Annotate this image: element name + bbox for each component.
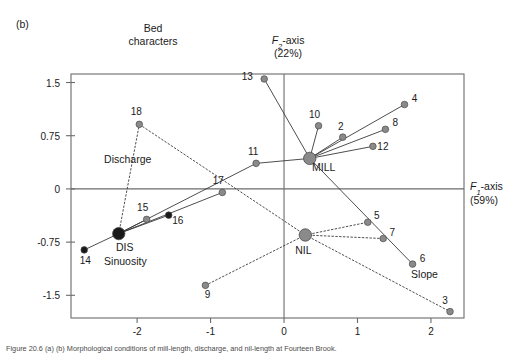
spoke-nil-9 — [205, 235, 305, 285]
data-point-18[interactable] — [136, 121, 143, 128]
data-point-5[interactable] — [364, 219, 371, 226]
spoke-nil-7 — [305, 235, 383, 239]
x-tick-label: 0 — [281, 326, 287, 337]
data-point-label-6: 6 — [420, 253, 426, 264]
data-point-16[interactable] — [165, 212, 172, 219]
panel-label: (b) — [16, 18, 29, 30]
data-point-7[interactable] — [380, 235, 387, 242]
zone-label-discharge: Discharge — [104, 153, 151, 165]
figure-panel: (b) -2-10121.50.750-0.75-1.5Bedcharacter… — [0, 0, 512, 355]
data-point-17[interactable] — [219, 189, 226, 196]
spoke-mill-13 — [264, 79, 310, 158]
spoke-dis-18 — [119, 124, 140, 233]
x-tick-label: 1 — [355, 326, 361, 337]
data-point-label-12: 12 — [377, 141, 389, 152]
data-point-label-5: 5 — [374, 210, 380, 221]
data-point-14[interactable] — [81, 247, 88, 254]
data-point-label-8: 8 — [393, 117, 399, 128]
y-tick-label: -1.5 — [43, 290, 61, 301]
data-point-15[interactable] — [143, 216, 150, 223]
spoke-mill-11 — [256, 158, 310, 163]
data-point-12[interactable] — [370, 143, 377, 150]
chart-header-line1: Bed — [144, 22, 163, 34]
data-point-label-4: 4 — [412, 93, 418, 104]
data-point-label-17: 17 — [213, 175, 225, 186]
f2-axis-variance: (22%) — [274, 47, 302, 59]
data-point-label-11: 11 — [248, 146, 259, 157]
data-point-label-2: 2 — [338, 121, 344, 132]
figure-caption: Figure 20.6 (a) (b) Morphological condit… — [6, 344, 506, 353]
data-point-label-18: 18 — [131, 106, 143, 117]
data-point-label-10: 10 — [309, 109, 321, 120]
spoke-dis-11 — [119, 163, 256, 233]
data-point-13[interactable] — [261, 76, 268, 83]
data-point-4[interactable] — [401, 101, 408, 108]
centroid-dis[interactable] — [113, 227, 125, 239]
data-point-2[interactable] — [339, 134, 346, 141]
centroid-label-mill: MILL — [312, 161, 336, 173]
data-point-label-9: 9 — [205, 289, 211, 300]
data-point-10[interactable] — [315, 122, 322, 129]
data-point-9[interactable] — [202, 282, 209, 289]
zone-label-sinuosity: Sinuosity — [104, 255, 147, 267]
data-point-8[interactable] — [382, 126, 389, 133]
centroid-label-dis: DIS — [116, 241, 134, 253]
data-point-label-13: 13 — [242, 71, 254, 82]
centroid-label-nil: NIL — [295, 244, 312, 256]
y-tick-label: 0 — [54, 184, 60, 195]
data-point-label-3: 3 — [442, 295, 448, 306]
data-point-label-16: 16 — [172, 215, 184, 226]
y-tick-label: 0.75 — [41, 131, 61, 142]
chart-header-line2: characters — [128, 35, 177, 47]
zone-label-slope: Slope — [411, 268, 438, 280]
x-tick-label: -1 — [206, 326, 215, 337]
data-point-label-14: 14 — [80, 255, 92, 266]
x-tick-label: 2 — [428, 326, 434, 337]
centroid-nil[interactable] — [299, 229, 311, 241]
spoke-mill-6 — [310, 158, 413, 264]
x-tick-label: -2 — [133, 326, 142, 337]
y-tick-label: -0.75 — [37, 237, 60, 248]
y-tick-label: 1.5 — [46, 78, 60, 89]
data-point-11[interactable] — [253, 160, 260, 167]
data-point-3[interactable] — [447, 308, 454, 315]
f1-axis-variance: (59%) — [470, 194, 498, 206]
spoke-nil-5 — [305, 222, 367, 235]
ordination-biplot: -2-10121.50.750-0.75-1.5BedcharactersF2-… — [0, 0, 512, 340]
data-point-6[interactable] — [409, 261, 416, 268]
data-point-label-15: 15 — [137, 202, 149, 213]
data-point-label-7: 7 — [389, 227, 395, 238]
spoke-mill-4 — [310, 105, 405, 159]
